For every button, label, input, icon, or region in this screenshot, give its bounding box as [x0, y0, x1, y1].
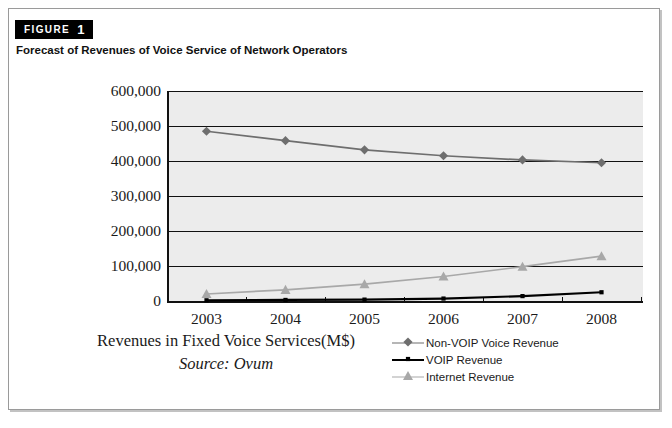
source-note: Source: Ovum — [61, 354, 391, 374]
y-axis-tick-label: 400,000 — [71, 152, 161, 170]
legend-item[interactable]: VOIP Revenue — [391, 351, 559, 368]
series-line — [207, 256, 602, 294]
x-axis-tick-label: 2003 — [172, 310, 242, 328]
series-voip-revenue — [204, 290, 603, 302]
data-point-marker — [520, 294, 524, 298]
figure-card: FIGURE 1 Forecast of Revenues of Voice S… — [8, 8, 660, 410]
legend-label: Non-VOIP Voice Revenue — [426, 337, 559, 349]
x-axis-tick-label: 2004 — [251, 310, 321, 328]
y-axis-tick-label: 100,000 — [71, 257, 161, 275]
y-axis-tick-label: 200,000 — [71, 222, 161, 240]
y-axis-tick-label: 0 — [71, 292, 161, 310]
legend-item[interactable]: Non-VOIP Voice Revenue — [391, 334, 559, 351]
x-axis-tick-label: 2007 — [488, 310, 558, 328]
data-point-marker — [597, 158, 606, 167]
series-internet-revenue — [202, 251, 607, 298]
x-axis-tick-label: 2006 — [409, 310, 479, 328]
data-point-marker — [406, 357, 410, 361]
legend-item[interactable]: Internet Revenue — [391, 368, 559, 385]
legend-glyph — [401, 369, 415, 383]
axis-caption-text: Revenues in Fixed Voice Services(M$) — [61, 331, 391, 351]
legend-label: Internet Revenue — [426, 371, 514, 383]
y-axis-tick-label: 500,000 — [71, 117, 161, 135]
chart-area: 0100,000200,000300,000400,000500,000600,… — [9, 9, 661, 411]
data-point-marker — [439, 151, 448, 160]
legend-marker-diamond-icon — [391, 335, 425, 350]
legend-marker-triangle-icon — [391, 369, 425, 384]
data-point-marker — [362, 298, 366, 302]
series-non-voip-voice-revenue — [202, 127, 606, 168]
data-point-marker — [597, 251, 607, 260]
data-point-marker — [202, 127, 211, 136]
chart-legend: Non-VOIP Voice RevenueVOIP RevenueIntern… — [391, 334, 559, 385]
data-point-marker — [281, 136, 290, 145]
data-point-marker — [403, 371, 413, 380]
data-point-marker — [599, 290, 603, 294]
data-point-marker — [283, 298, 287, 302]
x-axis-tick-label: 2005 — [330, 310, 400, 328]
data-point-marker — [518, 155, 527, 164]
legend-marker-square-icon — [391, 352, 425, 367]
y-axis-tick-label: 300,000 — [71, 187, 161, 205]
series-line — [207, 292, 602, 300]
data-point-marker — [360, 145, 369, 154]
x-axis-tick-mark — [641, 297, 642, 302]
series-line — [207, 131, 602, 163]
y-axis-tick-label: 600,000 — [71, 82, 161, 100]
series-layer — [167, 91, 641, 303]
data-point-marker — [441, 296, 445, 300]
legend-glyph — [401, 335, 415, 349]
data-point-marker — [403, 337, 412, 346]
legend-glyph — [401, 352, 415, 366]
legend-label: VOIP Revenue — [426, 354, 503, 366]
axis-caption: Revenues in Fixed Voice Services(M$) Sou… — [61, 331, 391, 374]
x-axis-tick-label: 2008 — [567, 310, 637, 328]
data-point-marker — [204, 298, 208, 302]
